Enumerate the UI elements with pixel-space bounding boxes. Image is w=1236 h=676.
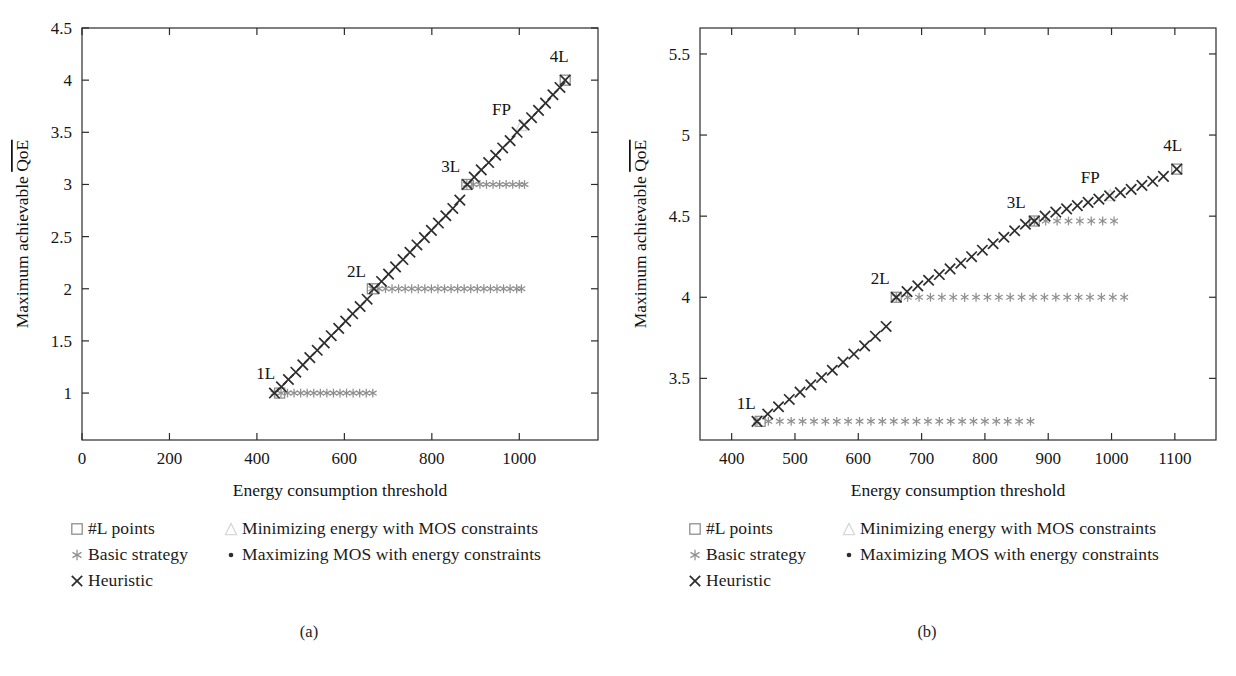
cross-marker [956, 258, 966, 268]
legend-entry-minimizing-energy-with-mos-constraints[interactable]: Minimizing energy with MOS constraints [220, 516, 606, 541]
asterisk-marker [958, 417, 966, 426]
cross-marker [816, 372, 826, 382]
asterisk-marker [690, 549, 699, 559]
legend-entry-l-points[interactable]: #L points [66, 516, 214, 541]
asterisk-marker [1041, 293, 1049, 302]
asterisk-marker [500, 284, 508, 293]
asterisk-marker [1004, 417, 1012, 426]
y-tick-label: 1 [64, 384, 73, 403]
y-tick-label: 5 [682, 126, 691, 145]
x-tick-label: 800 [419, 449, 445, 468]
asterisk-marker [496, 180, 504, 189]
asterisk-marker [316, 389, 324, 398]
annotation-fp: FP [1081, 168, 1100, 187]
x-tick-label: 600 [332, 449, 358, 468]
cross-marker [1172, 164, 1182, 174]
cross-marker [870, 331, 880, 341]
legend-entry-heuristic[interactable]: Heuristic [684, 568, 832, 593]
cross-marker [1009, 226, 1019, 236]
asterisk-marker [72, 549, 81, 559]
x-tick-label: 400 [719, 449, 745, 468]
asterisk-marker [66, 544, 88, 566]
y-tick-label: 3.5 [51, 123, 72, 142]
x-axis-title: Energy consumption threshold [851, 480, 1066, 500]
x-tick-label: 200 [157, 449, 183, 468]
asterisk-marker [509, 180, 517, 189]
cross-marker [913, 281, 923, 291]
cross-marker [684, 570, 706, 592]
asterisk-marker [1076, 217, 1084, 226]
asterisk-marker [947, 417, 955, 426]
plot-area-a: 0200400600800100011.522.533.544.51L2L3LF… [0, 0, 618, 500]
legend-entry-maximizing-mos-with-energy-constraints[interactable]: Maximizing MOS with energy constraints [220, 542, 606, 567]
legend-entry-basic-strategy[interactable]: Basic strategy [66, 542, 214, 567]
triangle-marker [843, 523, 854, 534]
annotation-4l: 4L [550, 47, 569, 66]
asterisk-marker [395, 284, 403, 293]
asterisk-marker [454, 284, 462, 293]
legend-entry-maximizing-mos-with-energy-constraints[interactable]: Maximizing MOS with energy constraints [838, 542, 1224, 567]
y-tick-label: 4 [682, 288, 691, 307]
legend-entry-basic-strategy[interactable]: Basic strategy [684, 542, 832, 567]
legend-label: #L points [706, 518, 773, 539]
asterisk-marker [434, 284, 442, 293]
asterisk-marker [513, 284, 521, 293]
legend-entry-l-points[interactable]: #L points [684, 516, 832, 541]
x-tick-label: 900 [1035, 449, 1061, 468]
x-tick-label: 1000 [1095, 449, 1129, 468]
asterisk-marker [297, 389, 305, 398]
x-tick-label: 0 [78, 449, 87, 468]
panel-caption-b: (b) [618, 622, 1236, 642]
cross-marker [988, 239, 998, 249]
asterisk-marker [408, 284, 416, 293]
y-tick-label: 4.5 [669, 207, 690, 226]
square-marker [690, 523, 700, 533]
svg-text:Maximum achievable QoE: Maximum achievable QoE [12, 140, 32, 329]
asterisk-marker [890, 417, 898, 426]
x-tick-label: 600 [846, 449, 872, 468]
cross-marker [362, 294, 372, 304]
asterisk-marker [330, 389, 338, 398]
asterisk-marker [489, 180, 497, 189]
x-tick-label: 1000 [502, 449, 536, 468]
asterisk-marker [303, 389, 311, 398]
scatter-plot-a: 0200400600800100011.522.533.544.51L2L3LF… [0, 0, 618, 500]
legend-entry-minimizing-energy-with-mos-constraints[interactable]: Minimizing energy with MOS constraints [838, 516, 1224, 541]
series-basic-strategy-step-3 [463, 180, 528, 189]
asterisk-marker [1110, 217, 1118, 226]
annotation-fp: FP [492, 100, 511, 119]
asterisk-marker [1099, 217, 1107, 226]
asterisk-marker [356, 389, 364, 398]
legend-label: Minimizing energy with MOS constraints [242, 518, 538, 539]
cross-marker [999, 232, 1009, 242]
annotation-2l: 2L [871, 269, 890, 288]
annotation-2l: 2L [347, 262, 366, 281]
asterisk-marker [349, 389, 357, 398]
cross-marker [1072, 200, 1082, 210]
asterisk-marker [935, 417, 943, 426]
x-tick-label: 400 [244, 449, 270, 468]
y-tick-label: 4.5 [51, 19, 72, 38]
legend-entry-heuristic[interactable]: Heuristic [66, 568, 214, 593]
legend-empty-cell [220, 568, 606, 593]
asterisk-marker [518, 284, 526, 293]
annotation-4l: 4L [1163, 136, 1182, 155]
asterisk-marker [1120, 293, 1128, 302]
cross-marker [1126, 184, 1136, 194]
cross-marker [1051, 207, 1061, 217]
cross-marker [966, 252, 976, 262]
asterisk-marker [493, 284, 501, 293]
asterisk-marker [867, 417, 875, 426]
asterisk-marker [984, 293, 992, 302]
asterisk-marker [487, 284, 495, 293]
y-tick-label: 3.5 [669, 369, 690, 388]
asterisk-marker [684, 544, 706, 566]
asterisk-marker [476, 180, 484, 189]
asterisk-marker [483, 180, 491, 189]
asterisk-marker [506, 284, 514, 293]
point-annotations: 1L2L3LFP4L [737, 136, 1182, 412]
asterisk-marker [776, 417, 784, 426]
cross-marker [72, 575, 82, 585]
legend-label: #L points [88, 518, 155, 539]
cross-marker [1094, 194, 1104, 204]
